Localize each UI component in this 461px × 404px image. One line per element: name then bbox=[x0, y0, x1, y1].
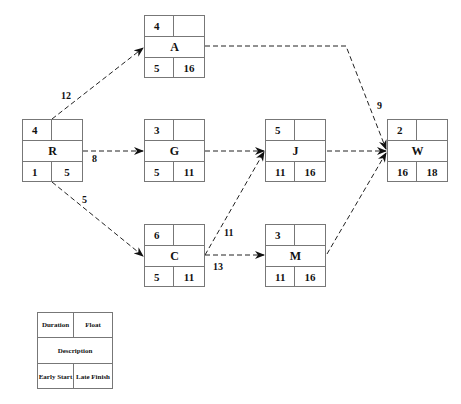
edge-label-r-a: 12 bbox=[61, 90, 71, 101]
activity-node-g: 3 G 511 bbox=[144, 119, 205, 182]
duration: 2 bbox=[388, 120, 417, 140]
early-start: 11 bbox=[266, 162, 295, 182]
early-start: 5 bbox=[145, 58, 174, 78]
float bbox=[295, 225, 325, 245]
description: R bbox=[23, 141, 82, 161]
activity-node-a: 4 A 516 bbox=[144, 15, 205, 78]
activity-node-w: 2 W 1618 bbox=[387, 119, 448, 182]
early-start: 5 bbox=[145, 162, 174, 182]
activity-node-j: 5 J 1116 bbox=[265, 119, 326, 182]
float bbox=[52, 120, 82, 140]
duration: 5 bbox=[266, 120, 295, 140]
edge-m-w bbox=[327, 153, 386, 254]
network-diagram: 12 8 5 9 11 13 4 R 15 4 A 516 3 G 511 6 … bbox=[0, 0, 461, 404]
early-start: 16 bbox=[388, 162, 417, 182]
late-finish: 5 bbox=[52, 162, 82, 182]
legend-duration: Duration bbox=[38, 313, 74, 337]
description: C bbox=[145, 246, 204, 266]
float bbox=[174, 225, 204, 245]
late-finish: 11 bbox=[174, 267, 204, 287]
edge-r-c bbox=[52, 182, 143, 256]
late-finish: 11 bbox=[174, 162, 204, 182]
legend-description: Description bbox=[38, 338, 112, 363]
legend-early-start: Early Start bbox=[38, 364, 74, 389]
early-start: 1 bbox=[23, 162, 52, 182]
node-legend: Duration Float Description Early Start L… bbox=[37, 312, 113, 389]
description: M bbox=[266, 246, 325, 266]
edge-r-a bbox=[52, 48, 143, 119]
float bbox=[417, 120, 447, 140]
duration: 3 bbox=[145, 120, 174, 140]
float bbox=[295, 120, 325, 140]
edge-label-r-g: 8 bbox=[92, 153, 97, 164]
legend-late-finish: Late Finish bbox=[74, 364, 112, 389]
description: G bbox=[145, 141, 204, 161]
early-start: 5 bbox=[145, 267, 174, 287]
description: J bbox=[266, 141, 325, 161]
description: A bbox=[145, 37, 204, 57]
edge-label-a-w: 9 bbox=[377, 100, 382, 111]
duration: 3 bbox=[266, 225, 295, 245]
edge-label-c-m: 13 bbox=[213, 261, 223, 272]
duration: 6 bbox=[145, 225, 174, 245]
late-finish: 16 bbox=[295, 162, 325, 182]
late-finish: 16 bbox=[174, 58, 204, 78]
activity-node-m: 3 M 1116 bbox=[265, 224, 326, 287]
legend-float: Float bbox=[74, 313, 112, 337]
float bbox=[174, 16, 204, 36]
late-finish: 16 bbox=[295, 267, 325, 287]
edge-c-j bbox=[205, 152, 264, 255]
float bbox=[174, 120, 204, 140]
description: W bbox=[388, 141, 447, 161]
activity-node-c: 6 C 511 bbox=[144, 224, 205, 287]
edge-label-c-j: 11 bbox=[224, 227, 233, 238]
duration: 4 bbox=[23, 120, 52, 140]
edge-label-r-c: 5 bbox=[82, 194, 87, 205]
activity-node-r: 4 R 15 bbox=[22, 119, 83, 182]
early-start: 11 bbox=[266, 267, 295, 287]
late-finish: 18 bbox=[417, 162, 447, 182]
duration: 4 bbox=[145, 16, 174, 36]
